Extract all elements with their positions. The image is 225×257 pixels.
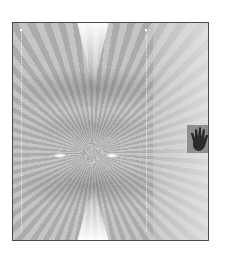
guide-line-left (21, 31, 22, 232)
corner-marker-right (145, 29, 147, 31)
left-highlight (53, 153, 67, 158)
hand-icon (187, 125, 209, 153)
right-highlight (105, 153, 119, 158)
guide-line-right (146, 31, 147, 232)
artwork-frame (12, 22, 209, 241)
corner-marker-left (20, 29, 22, 31)
